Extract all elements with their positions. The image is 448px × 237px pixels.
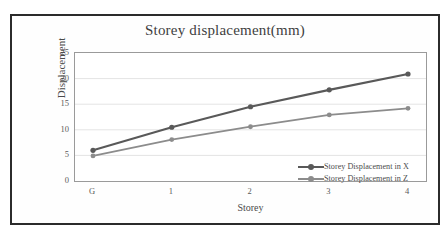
x-tick-label: 4 xyxy=(392,186,422,196)
data-point-marker xyxy=(405,71,410,76)
legend-marker-icon xyxy=(298,162,324,171)
data-point-marker xyxy=(169,125,174,130)
legend-item-1: Storey Displacement in X xyxy=(298,162,409,171)
y-tick-label: 25 xyxy=(43,47,69,57)
x-tick-label: 1 xyxy=(156,186,186,196)
data-point-marker xyxy=(327,87,332,92)
data-point-marker xyxy=(248,124,253,129)
legend-item-2: Storey Displacement in Z xyxy=(298,174,409,183)
data-point-marker xyxy=(327,113,332,118)
data-point-marker xyxy=(90,148,95,153)
y-tick-label: 15 xyxy=(43,98,69,108)
data-point-marker xyxy=(248,104,253,109)
chart-title: Storey displacement(mm) xyxy=(12,22,438,39)
legend-label: Storey Displacement in X xyxy=(324,162,409,171)
chart-legend: Storey Displacement in XStorey Displacem… xyxy=(298,162,409,183)
chart-figure: Storey displacement(mm) Displacement 051… xyxy=(10,14,440,225)
x-tick-label: G xyxy=(77,186,107,196)
x-axis-title: Storey xyxy=(74,202,427,213)
data-point-marker xyxy=(406,106,411,111)
data-point-marker xyxy=(169,137,174,142)
y-tick-label: 5 xyxy=(43,149,69,159)
y-tick-label: 20 xyxy=(43,73,69,83)
y-tick-label: 0 xyxy=(43,175,69,185)
legend-label: Storey Displacement in Z xyxy=(324,174,408,183)
y-tick-label: 10 xyxy=(43,124,69,134)
legend-marker-icon xyxy=(298,174,324,183)
x-tick-label: 3 xyxy=(313,186,343,196)
data-point-marker xyxy=(91,154,96,159)
x-tick-label: 2 xyxy=(235,186,265,196)
series-line-2 xyxy=(93,108,408,156)
